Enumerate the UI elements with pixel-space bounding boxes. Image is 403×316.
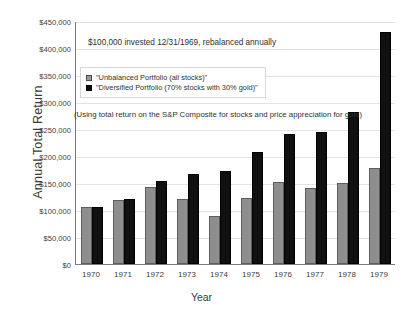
bar-diversified	[284, 134, 295, 264]
bar-group	[268, 22, 300, 264]
y-axis-tick-label: $200,000	[9, 153, 71, 162]
bar-diversified	[124, 199, 135, 264]
y-axis-tick-label: $250,000	[9, 126, 71, 135]
legend-swatch-diversified-icon	[86, 85, 92, 91]
bar-diversified	[252, 152, 263, 264]
bar-diversified	[188, 174, 199, 264]
bar-chart-figure: Annual Total Return $0$50,000$100,000$15…	[0, 0, 403, 316]
bar-unbalanced	[113, 200, 124, 264]
bar-diversified	[92, 207, 103, 264]
chart-legend: "Unbalanced Portfolio (all stocks)" "Div…	[80, 67, 266, 98]
bar-diversified	[156, 181, 167, 264]
y-axis-tick-label: $350,000	[9, 72, 71, 81]
bar-group	[76, 22, 108, 264]
x-axis-title: Year	[0, 291, 403, 303]
bar-group	[204, 22, 236, 264]
bar-unbalanced	[209, 216, 220, 264]
bar-unbalanced	[241, 198, 252, 264]
y-axis-tick-label: $300,000	[9, 99, 71, 108]
bar-diversified	[316, 132, 327, 264]
bar-group	[300, 22, 332, 264]
bar-unbalanced	[369, 168, 380, 264]
annotation-method: (Using total return on the S&P Composite…	[74, 110, 362, 119]
bar-group	[108, 22, 140, 264]
bar-diversified	[220, 171, 231, 264]
plot-area	[75, 22, 395, 265]
bar-unbalanced	[337, 183, 348, 264]
bar-unbalanced	[273, 182, 284, 264]
legend-item-unbalanced: "Unbalanced Portfolio (all stocks)"	[86, 73, 258, 82]
legend-label-diversified: "Diversified Portfolio (70% stocks with …	[96, 83, 258, 92]
bar-group	[140, 22, 172, 264]
bar-group	[332, 22, 364, 264]
y-axis-tick-label: $50,000	[9, 234, 71, 243]
bar-unbalanced	[177, 199, 188, 264]
bar-diversified	[380, 32, 391, 264]
bar-unbalanced	[145, 187, 156, 264]
bar-group	[364, 22, 396, 264]
bar-diversified	[348, 112, 359, 264]
annotation-invested: $100,000 invested 12/31/1969, rebalanced…	[88, 38, 276, 47]
legend-item-diversified: "Diversified Portfolio (70% stocks with …	[86, 83, 258, 92]
bar-group	[172, 22, 204, 264]
legend-swatch-unbalanced-icon	[86, 75, 92, 81]
y-axis-tick-label: $450,000	[9, 18, 71, 27]
y-axis-tick-label: $100,000	[9, 207, 71, 216]
y-axis-tick-label: $400,000	[9, 45, 71, 54]
bar-group	[236, 22, 268, 264]
y-axis-tick-label: $150,000	[9, 180, 71, 189]
bar-unbalanced	[305, 188, 316, 264]
bar-unbalanced	[81, 207, 92, 264]
x-axis-tick-label: 1979	[359, 270, 399, 279]
bars-layer	[76, 22, 395, 264]
y-axis-tick-label: $0	[9, 261, 71, 270]
legend-label-unbalanced: "Unbalanced Portfolio (all stocks)"	[96, 73, 207, 82]
